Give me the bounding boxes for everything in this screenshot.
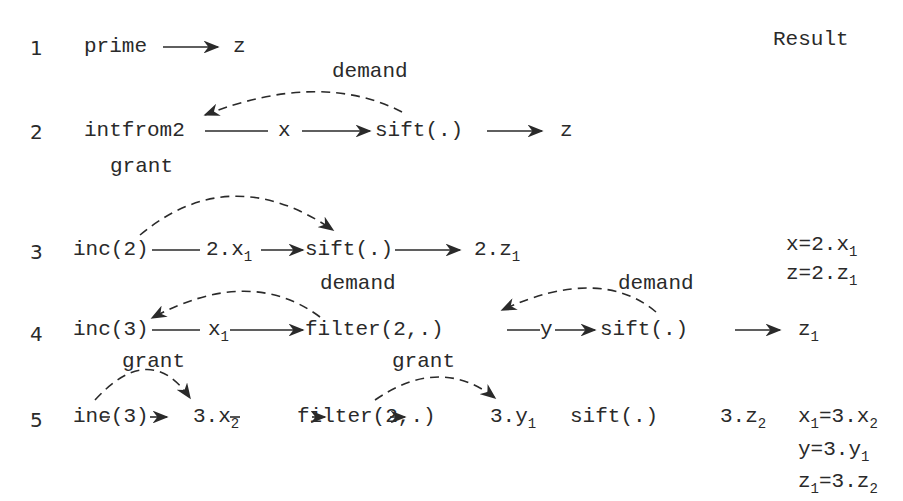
result-column-header: Result bbox=[773, 28, 849, 52]
node-z: z bbox=[233, 35, 246, 59]
node-sift: sift(.) bbox=[570, 405, 658, 429]
node-3y1: 3.y1 bbox=[490, 405, 536, 436]
node-x: x bbox=[278, 119, 291, 143]
node-3z2: 3.z2 bbox=[720, 405, 766, 436]
arc-label-demand: demand bbox=[320, 272, 396, 296]
step-number: 1 bbox=[30, 36, 43, 60]
node-z: z bbox=[560, 119, 573, 143]
result-y: y=3.y1 bbox=[798, 438, 869, 469]
node-2z1: 2.z1 bbox=[474, 238, 520, 269]
result-x1: x1=3.x2 bbox=[798, 405, 878, 436]
arc-label-grant: grant bbox=[110, 155, 173, 179]
node-sift: sift(.) bbox=[375, 119, 463, 143]
node-inc-3: inc(3) bbox=[73, 318, 149, 342]
node-inc-2: inc(2) bbox=[73, 238, 149, 262]
arc-label-demand: demand bbox=[332, 60, 408, 84]
node-y: y bbox=[540, 318, 553, 342]
step-number: 2 bbox=[30, 120, 43, 144]
step-number: 5 bbox=[30, 408, 43, 432]
node-filter: filter(2,.) bbox=[297, 405, 436, 429]
arc-label-grant: grant bbox=[392, 350, 455, 374]
node-2x1: 2.x1 bbox=[206, 238, 252, 269]
node-z1: z1 bbox=[798, 318, 819, 349]
result-z1: z1=3.z2 bbox=[798, 470, 878, 501]
node-filter: filter(2,.) bbox=[305, 318, 444, 342]
step-number: 4 bbox=[30, 322, 43, 346]
node-3x2: 3.x2 bbox=[193, 405, 239, 436]
node-sift: sift(.) bbox=[305, 238, 393, 262]
step-number: 3 bbox=[30, 240, 43, 264]
result-x: x=2.x1 bbox=[786, 233, 857, 264]
node-x1: x1 bbox=[208, 318, 229, 349]
arc-label-grant: grant bbox=[122, 350, 185, 374]
node-prime: prime bbox=[84, 35, 147, 59]
arc-label-demand: demand bbox=[618, 272, 694, 296]
node-intfrom2: intfrom2 bbox=[84, 119, 185, 143]
node-inc-3: inc(3) bbox=[73, 405, 149, 429]
node-sift: sift(.) bbox=[600, 318, 688, 342]
result-z: z=2.z1 bbox=[786, 262, 857, 293]
